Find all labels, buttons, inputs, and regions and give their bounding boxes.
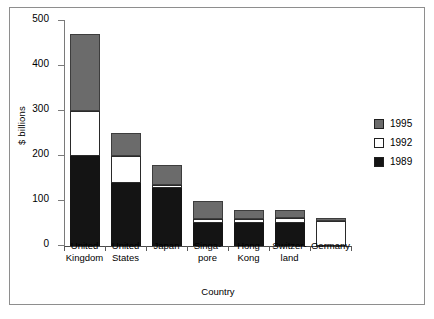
y-axis-title: $ billions (16, 66, 27, 186)
bar-segment-1992[interactable] (111, 156, 141, 183)
bar-segment-1995[interactable] (316, 218, 346, 222)
y-axis-tick-label: 500 (17, 13, 49, 24)
x-axis-label-line: States (95, 252, 157, 264)
legend-item-1992[interactable]: 1992 (374, 133, 430, 152)
bar-segment-1995[interactable] (111, 133, 141, 156)
x-axis-label: Germany (300, 240, 362, 252)
bar-segment-1992[interactable] (70, 111, 100, 156)
bar-segment-1992[interactable] (234, 219, 264, 223)
y-axis-tick: 200 (58, 155, 65, 156)
x-axis-label-line: Germany (300, 240, 362, 252)
x-axis-title: Country (10, 286, 426, 297)
bar[interactable] (70, 34, 100, 246)
y-axis-line (64, 21, 65, 247)
legend-swatch-icon (374, 119, 384, 129)
plot-area: 0100200300400500 (64, 21, 351, 247)
bar-segment-1992[interactable] (193, 219, 223, 223)
y-axis-tick-label: 0 (17, 238, 49, 249)
bar-segment-1995[interactable] (275, 210, 305, 218)
y-axis-tick-label: 400 (17, 58, 49, 69)
bar-segment-1989[interactable] (111, 183, 141, 246)
bar-segment-1995[interactable] (234, 210, 264, 219)
legend-label: 1992 (390, 137, 412, 148)
y-axis-tick-label: 100 (17, 193, 49, 204)
x-axis-label-line: land (259, 252, 321, 264)
legend-swatch-icon (374, 138, 384, 148)
bar-segment-1992[interactable] (275, 218, 305, 223)
legend-item-1989[interactable]: 1989 (374, 152, 430, 171)
legend-item-1995[interactable]: 1995 (374, 114, 430, 133)
bar-segment-1989[interactable] (152, 188, 182, 246)
y-axis-tick-label: 300 (17, 103, 49, 114)
y-axis-tick: 100 (58, 200, 65, 201)
chart-legend: 199519921989 (374, 114, 430, 171)
chart-figure: $ billions 0100200300400500 UnitedKingdo… (9, 7, 425, 305)
y-axis-tick-label: 200 (17, 148, 49, 159)
bar[interactable] (152, 165, 182, 246)
bar-segment-1995[interactable] (193, 201, 223, 219)
bar-segment-1995[interactable] (70, 34, 100, 111)
bar-segment-1992[interactable] (152, 185, 182, 188)
y-axis-tick: 300 (58, 110, 65, 111)
y-axis-tick: 400 (58, 65, 65, 66)
legend-label: 1989 (390, 156, 412, 167)
bar-segment-1989[interactable] (70, 156, 100, 246)
bar[interactable] (111, 133, 141, 246)
bar-segment-1995[interactable] (152, 165, 182, 185)
legend-swatch-icon (374, 157, 384, 167)
legend-label: 1995 (390, 118, 412, 129)
y-axis-tick: 500 (58, 20, 65, 21)
